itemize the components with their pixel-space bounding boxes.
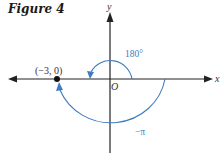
point-label: (−3, 0) <box>35 65 62 77</box>
x-axis-left-arrow-icon <box>8 76 17 83</box>
figure-title: Figure 4 <box>7 2 65 16</box>
origin-label: O <box>111 81 118 92</box>
x-axis-label: x <box>214 73 220 84</box>
y-axis-up-arrow-icon <box>107 12 114 22</box>
figure-canvas: Figure 4 x y O 180° −π (−3, 0) <box>0 0 223 160</box>
point-marker <box>54 76 60 82</box>
y-axis-label: y <box>106 1 112 12</box>
x-axis-right-arrow-icon <box>204 76 213 83</box>
arc-minus-pi-label: −π <box>135 127 145 137</box>
arc-180-label: 180° <box>125 49 143 59</box>
arc-arrowhead-icon <box>87 71 94 79</box>
arc-arrowhead-icon <box>56 82 63 91</box>
